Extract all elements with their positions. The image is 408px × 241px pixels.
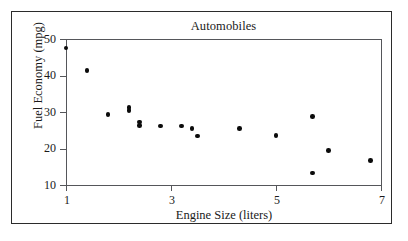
data-point bbox=[195, 134, 200, 139]
data-point bbox=[137, 123, 142, 128]
data-point bbox=[310, 114, 315, 119]
x-tick: 7 bbox=[381, 185, 382, 191]
y-tick-label: 20 bbox=[44, 141, 56, 156]
x-tick-label: 3 bbox=[162, 193, 182, 208]
plot-area bbox=[66, 39, 381, 185]
x-tick: 5 bbox=[276, 185, 277, 191]
x-tick: 1 bbox=[66, 185, 67, 191]
plot-right-border bbox=[381, 39, 382, 186]
x-axis-line bbox=[66, 185, 382, 186]
data-point bbox=[274, 133, 279, 138]
chart-title: Automobiles bbox=[12, 19, 391, 34]
data-point bbox=[310, 171, 315, 176]
data-point bbox=[158, 124, 163, 129]
y-tick-label: 30 bbox=[44, 105, 56, 120]
data-point bbox=[326, 148, 331, 153]
data-point bbox=[127, 108, 132, 113]
data-point bbox=[85, 68, 90, 73]
data-point bbox=[368, 158, 373, 163]
x-tick: 3 bbox=[171, 185, 172, 191]
data-point bbox=[237, 126, 242, 131]
x-tick-label: 7 bbox=[372, 193, 392, 208]
figure-frame: Automobiles 1020304050 1357 Engine Size … bbox=[11, 11, 392, 224]
data-point bbox=[190, 126, 195, 131]
y-tick-label: 40 bbox=[44, 68, 56, 83]
data-point bbox=[106, 112, 111, 117]
x-tick-label: 1 bbox=[57, 193, 77, 208]
x-axis-title: Engine Size (liters) bbox=[66, 208, 382, 223]
data-point bbox=[64, 46, 69, 51]
x-tick-label: 5 bbox=[267, 193, 287, 208]
y-tick-label: 10 bbox=[44, 178, 56, 193]
y-tick-label: 50 bbox=[44, 32, 56, 47]
y-axis-title: Fuel Economy (mpg) bbox=[31, 1, 46, 151]
data-point bbox=[179, 124, 184, 129]
